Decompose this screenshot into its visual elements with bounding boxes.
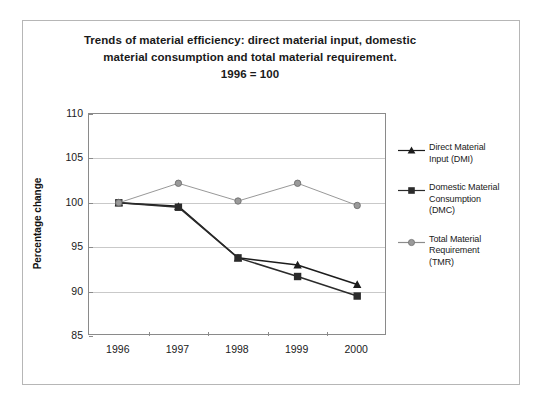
chart-legend: Direct Material Input (DMI) Domestic Mat…: [398, 142, 516, 285]
chart-title-line-1: Trends of material efficiency: direct ma…: [45, 32, 455, 49]
legend-label-tmr-line-3: (TMR): [429, 257, 516, 269]
y-tick-label: 85: [49, 329, 83, 341]
y-tick-label: 110: [49, 107, 83, 119]
chart-title: Trends of material efficiency: direct ma…: [45, 32, 455, 83]
x-tick-label: 1996: [88, 343, 148, 355]
y-tick-label: 105: [49, 151, 83, 163]
legend-entry-tmr[interactable]: Total Material Requirement (TMR): [398, 234, 516, 269]
legend-label-tmr-line-1: Total Material: [429, 234, 516, 246]
legend-label-tmr-line-2: Requirement: [429, 245, 516, 257]
y-axis-title: Percentage change: [32, 154, 43, 294]
series-triangle: [115, 199, 362, 288]
x-tick-label: 2000: [326, 343, 386, 355]
chart-title-line-2: material consumption and total material …: [45, 49, 455, 66]
legend-label-dmi-line-1: Direct Material: [429, 142, 516, 154]
legend-label-dmc-line-2: Consumption: [429, 194, 516, 206]
x-tick-label: 1999: [267, 343, 327, 355]
chart-title-line-3: 1996 = 100: [45, 66, 455, 83]
y-tick-label: 90: [49, 285, 83, 297]
y-tick-label: 100: [49, 196, 83, 208]
legend-marker-triangle-icon: [398, 145, 425, 156]
series-layer: [89, 114, 387, 336]
y-tick-mark: [89, 336, 93, 337]
x-tick-label: 1997: [147, 343, 207, 355]
legend-entry-dmc[interactable]: Domestic Material Consumption (DMC): [398, 182, 516, 217]
x-tick-label: 1998: [207, 343, 267, 355]
y-tick-label: 95: [49, 240, 83, 252]
series-square: [115, 199, 361, 300]
chart-figure: Trends of material efficiency: direct ma…: [0, 0, 542, 411]
legend-label-dmc-line-1: Domestic Material: [429, 182, 516, 194]
legend-label-dmc-line-3: (DMC): [429, 205, 516, 217]
legend-entry-dmi[interactable]: Direct Material Input (DMI): [398, 142, 516, 165]
legend-marker-circle-icon: [398, 237, 425, 248]
plot-area: [88, 113, 386, 335]
legend-label-dmi-line-2: Input (DMI): [429, 154, 516, 166]
legend-marker-square-icon: [398, 185, 425, 196]
